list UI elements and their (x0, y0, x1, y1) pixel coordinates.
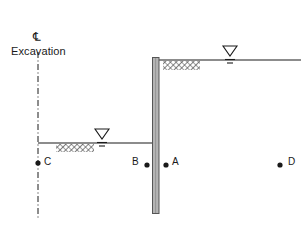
ground-hatch-right-overlay (163, 61, 200, 70)
point-label-a: A (172, 157, 179, 167)
excavation-diagram: ℄ Excavation A B C D (0, 0, 308, 226)
point-label-b: B (132, 157, 139, 167)
point-marker-d (277, 162, 282, 167)
point-marker-a (163, 162, 168, 167)
centerline-symbol-label: ℄ (33, 31, 41, 43)
diagram-canvas (0, 0, 308, 226)
point-label-c: C (44, 157, 51, 167)
ground-hatch-left-overlay (56, 144, 94, 152)
point-marker-b (144, 162, 149, 167)
excavation-label: Excavation (11, 46, 66, 57)
point-label-d: D (288, 157, 295, 167)
point-marker-c (35, 160, 40, 165)
